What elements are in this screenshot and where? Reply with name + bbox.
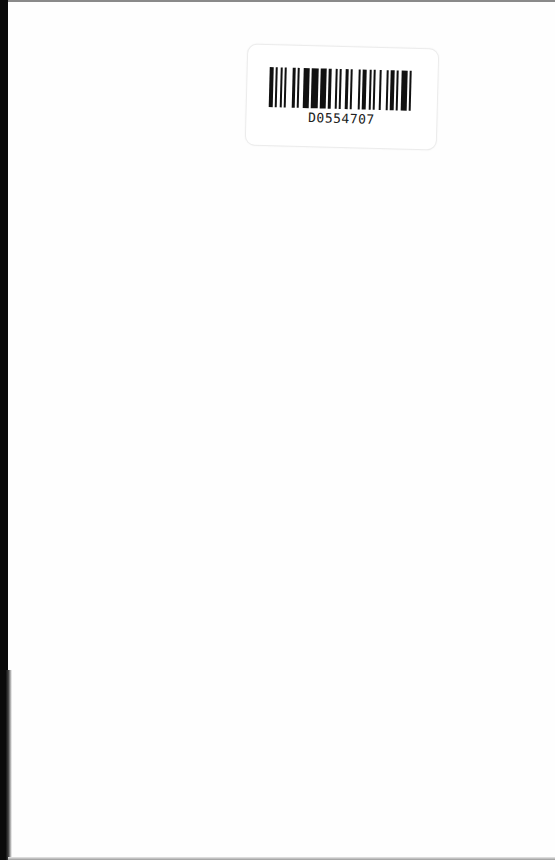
barcode-icon	[269, 67, 416, 111]
library-barcode-sticker: D0554707	[245, 44, 440, 151]
page-top-edge	[8, 0, 555, 2]
binding-frayed-edge	[6, 670, 12, 860]
barcode-gap	[411, 71, 416, 111]
barcode-number: D0554707	[246, 109, 436, 129]
